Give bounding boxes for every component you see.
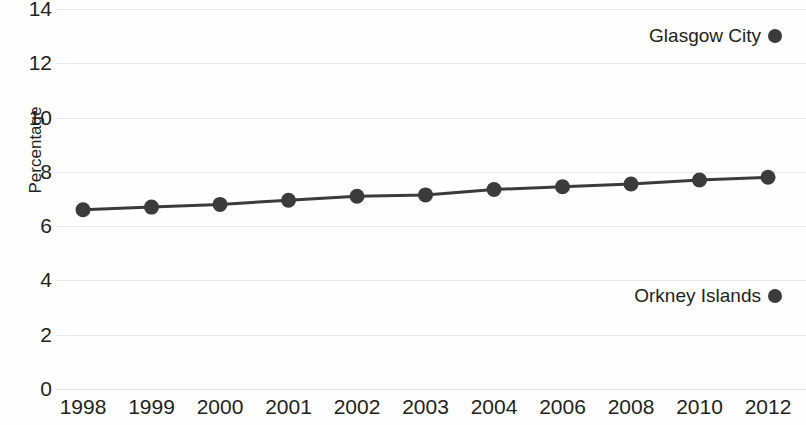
data-point-marker (76, 202, 91, 217)
y-tick-label: 4 (12, 269, 52, 290)
legend-marker-glasgow-city-icon (768, 29, 782, 43)
legend-label-orkney-islands: Orkney Islands (634, 286, 761, 305)
plot-area (56, 0, 806, 425)
y-tick-label: 14 (12, 0, 52, 19)
y-tick-label: 0 (12, 378, 52, 399)
y-tick-label: 6 (12, 215, 52, 236)
legend-item-orkney-islands[interactable]: Orkney Islands (634, 286, 782, 305)
legend-marker-orkney-islands-icon (768, 289, 782, 303)
data-point-marker (761, 170, 776, 185)
y-tick-label: 12 (12, 52, 52, 73)
legend-item-glasgow-city[interactable]: Glasgow City (649, 26, 782, 45)
data-point-marker (555, 179, 570, 194)
data-point-marker (281, 193, 296, 208)
data-point-marker (624, 177, 639, 192)
series-layer (56, 0, 806, 425)
y-axis-ticks: 14121086420 (0, 0, 52, 425)
y-tick-label: 8 (12, 161, 52, 182)
data-point-marker (213, 197, 228, 212)
line-chart: Percentage 14121086420 19981999200020012… (0, 0, 806, 425)
y-tick-label: 2 (12, 324, 52, 345)
data-point-marker (144, 200, 159, 215)
data-point-marker (418, 187, 433, 202)
data-point-marker (692, 172, 707, 187)
data-point-marker (487, 182, 502, 197)
legend-label-glasgow-city: Glasgow City (649, 26, 761, 45)
y-tick-label: 10 (12, 107, 52, 128)
data-point-marker (350, 189, 365, 204)
